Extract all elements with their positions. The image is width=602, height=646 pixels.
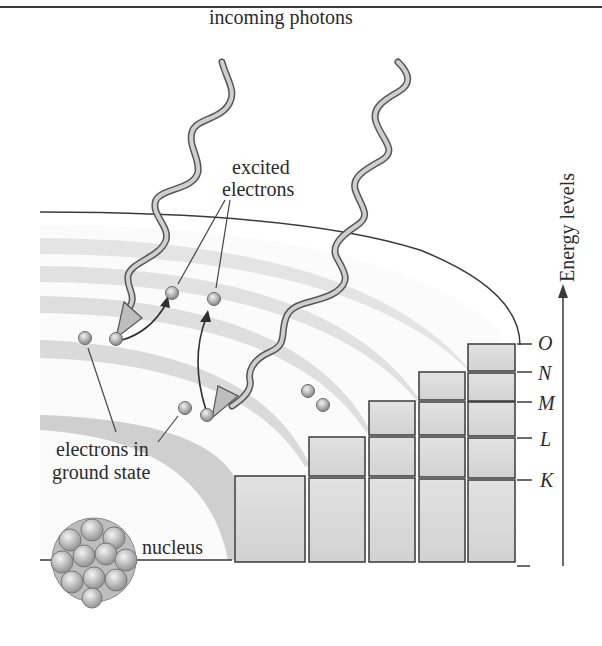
- label-excited-line1: excited: [232, 156, 290, 178]
- energy-level-diagram: [0, 0, 602, 646]
- electron-ground-2: [110, 333, 123, 346]
- energy-axis-arrow: [558, 284, 568, 566]
- label-ground-line1: electrons in: [56, 438, 149, 460]
- level-K: K: [540, 469, 553, 492]
- electron-ground-1: [79, 332, 92, 345]
- label-incoming-photons: incoming photons: [209, 6, 353, 28]
- level-O: O: [538, 332, 552, 355]
- electron-ground-6: [317, 399, 330, 412]
- label-nucleus: nucleus: [142, 536, 203, 558]
- level-N: N: [538, 362, 551, 385]
- electron-excited-2: [208, 293, 221, 306]
- label-ground-line2: ground state: [52, 461, 150, 483]
- electron-excited-1: [166, 287, 179, 300]
- nucleus-icon: [51, 518, 137, 608]
- level-M: M: [538, 392, 555, 415]
- level-ticks: [517, 344, 532, 480]
- electron-ground-3: [179, 402, 192, 415]
- label-excited-line2: electrons: [222, 178, 294, 200]
- electron-ground-5: [302, 385, 315, 398]
- energy-axis-title: Energy levels: [556, 173, 579, 282]
- electron-ground-4: [201, 409, 214, 422]
- level-L: L: [540, 428, 551, 451]
